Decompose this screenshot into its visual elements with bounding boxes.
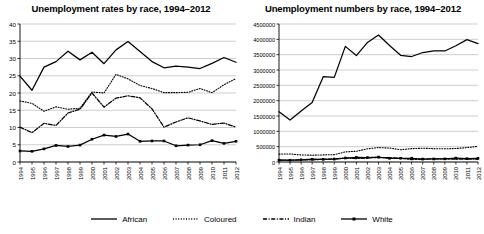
y-axis-tick-label: 35 [9, 38, 16, 45]
y-axis-tick-label: 1500000 [253, 114, 275, 120]
y-axis-tick-label: 500000 [256, 144, 275, 150]
x-axis-tick-label: 2009 [442, 167, 448, 180]
x-axis-tick-label: 2005 [150, 167, 156, 180]
series-marker-white [344, 157, 347, 160]
y-axis-tick-label: 10 [9, 124, 16, 131]
series-marker-white [377, 156, 380, 159]
legend-item-indian[interactable]: Indian [263, 215, 316, 224]
series-marker-white [103, 134, 106, 137]
series-marker-white [139, 140, 142, 143]
x-axis-tick-label: 2007 [174, 167, 180, 180]
x-axis-tick-label: 1999 [332, 167, 338, 180]
legend-label: Coloured [204, 215, 236, 224]
y-axis-tick-label: 3000000 [253, 68, 275, 74]
x-axis-tick-label: 2003 [126, 167, 132, 180]
plot-svg-rates: 0510152025303540199419951996199719981999… [0, 18, 242, 198]
series-marker-white [79, 144, 82, 147]
series-marker-white [366, 156, 369, 159]
x-axis-tick-label: 2004 [138, 166, 144, 180]
y-axis-tick-label: 30 [9, 55, 16, 62]
y-axis-tick-label: 15 [9, 107, 16, 114]
series-marker-white [187, 144, 190, 147]
dual-line-chart-figure: Unemployment rates by race, 1994–2012 05… [0, 0, 484, 234]
x-axis-tick-label: 2008 [186, 167, 192, 180]
x-axis-tick-label: 2001 [354, 167, 360, 180]
legend-item-white[interactable]: White [341, 215, 392, 224]
x-axis-tick-label: 1999 [78, 167, 84, 180]
series-marker-white [444, 158, 447, 161]
x-axis-tick-label: 2009 [198, 167, 204, 180]
y-axis-tick-label: 25 [9, 72, 16, 79]
series-line-white [20, 134, 236, 151]
series-line-african [20, 42, 236, 91]
x-axis-tick-label: 1997 [310, 167, 316, 180]
series-marker-white [211, 139, 214, 142]
x-axis-tick-label: 2002 [114, 167, 120, 180]
x-axis-tick-label: 1996 [299, 167, 305, 180]
series-marker-white [477, 157, 480, 160]
chart-title-numbers: Unemployment numbers by race, 1994–2012 [242, 3, 484, 14]
y-axis-tick-label: 0 [13, 159, 17, 166]
series-marker-white [115, 135, 118, 138]
x-axis-tick-label: 2001 [102, 167, 108, 180]
chart-legend: AfricanColouredIndianWhite [0, 200, 484, 234]
chart-panel-numbers: Unemployment numbers by race, 1994–2012 … [242, 0, 484, 196]
y-axis-tick-label: 40 [9, 21, 16, 28]
x-axis-tick-label: 2004 [387, 166, 393, 180]
series-marker-white [300, 158, 303, 161]
series-marker-white [43, 148, 46, 151]
plot-svg-numbers: 0500000100000015000002000000250000030000… [242, 18, 484, 198]
x-axis-tick-label: 1995 [30, 167, 36, 180]
series-marker-white [223, 142, 226, 145]
legend-label: White [372, 215, 392, 224]
chart-panel-rates: Unemployment rates by race, 1994–2012 05… [0, 0, 242, 196]
legend-key-white [341, 215, 367, 223]
y-axis-tick-label: 3500000 [253, 52, 275, 58]
series-line-coloured [279, 146, 478, 155]
series-marker-white [235, 140, 238, 143]
plot-area-rates: 0510152025303540199419951996199719981999… [0, 18, 242, 198]
y-axis-tick-label: 2000000 [253, 98, 275, 104]
x-axis-tick-label: 1994 [18, 166, 24, 180]
x-axis-tick-label: 1997 [54, 167, 60, 180]
legend-label: Indian [294, 215, 316, 224]
x-axis-tick-label: 2011 [465, 167, 471, 179]
y-axis-tick-label: 5 [13, 141, 17, 148]
x-axis-tick-label: 2006 [409, 167, 415, 180]
series-line-indian [20, 93, 236, 133]
x-axis-tick-label: 2000 [90, 167, 96, 180]
x-axis-tick-label: 1996 [42, 167, 48, 180]
y-axis-tick-label: 4500000 [253, 22, 275, 28]
series-marker-white [199, 143, 202, 146]
y-axis-tick-label: 2500000 [253, 83, 275, 89]
x-axis-tick-label: 1995 [288, 167, 294, 180]
x-axis-tick-label: 2007 [420, 167, 426, 180]
series-marker-white [19, 150, 22, 153]
x-axis-tick-label: 2012 [476, 167, 482, 180]
y-axis-tick-label: 20 [9, 90, 16, 97]
x-axis-tick-label: 2000 [343, 167, 349, 180]
x-axis-tick-label: 2010 [453, 167, 459, 180]
series-marker-white [151, 140, 154, 143]
x-axis-tick-label: 2002 [365, 167, 371, 180]
y-axis-tick-label: 0 [272, 160, 275, 166]
legend-item-african[interactable]: African [91, 215, 147, 224]
x-axis-tick-label: 1998 [66, 167, 72, 180]
legend-label: African [122, 215, 147, 224]
legend-key-indian [263, 215, 289, 223]
legend-item-coloured[interactable]: Coloured [173, 215, 236, 224]
series-marker-white [91, 138, 94, 141]
x-axis-tick-label: 1994 [277, 166, 283, 180]
series-marker-white [163, 140, 166, 143]
y-axis-tick-label: 1000000 [253, 129, 275, 135]
series-marker-white [333, 158, 336, 161]
series-marker-white [31, 150, 34, 153]
series-marker-white [410, 157, 413, 160]
x-axis-tick-label: 1998 [321, 167, 327, 180]
x-axis-tick-label: 2012 [234, 167, 240, 180]
series-marker-white [399, 157, 402, 160]
series-marker-white [55, 144, 58, 147]
series-marker-white [388, 157, 391, 160]
series-marker-white [355, 156, 358, 159]
series-marker-white [67, 145, 70, 148]
